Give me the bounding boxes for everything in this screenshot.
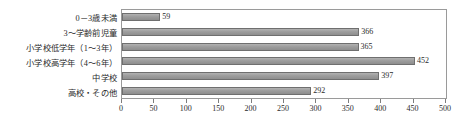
bar-value-label: 366 [361, 28, 373, 36]
x-axis-tick-mark [186, 99, 187, 103]
x-axis-tick-label: 350 [342, 104, 354, 113]
bar-value-label: 365 [361, 43, 373, 51]
bar-row: 365 [122, 39, 446, 54]
bar-row: 397 [122, 69, 446, 84]
category-axis: 0－3歳未満 3～学齢前児童 小学校低学年（1～3年） 小学校高学年（4～6年）… [0, 9, 120, 99]
x-axis: 050100150200250300350400450500 [121, 99, 447, 129]
bar-row: 366 [122, 25, 446, 40]
x-axis-tick-mark [251, 99, 252, 103]
bar [122, 72, 379, 80]
bar-value-label: 452 [417, 57, 429, 65]
bar [122, 13, 160, 21]
x-axis-tick-mark [153, 99, 154, 103]
category-label: 中学校 [0, 69, 120, 84]
bar-row: 452 [122, 54, 446, 69]
bar [122, 28, 359, 36]
horizontal-bar-chart: 0－3歳未満 3～学齢前児童 小学校低学年（1～3年） 小学校高学年（4～6年）… [0, 0, 457, 134]
x-axis-tick-mark [218, 99, 219, 103]
x-axis-tick-label: 0 [119, 104, 123, 113]
bar [122, 57, 415, 65]
plot-area: 59 366 365 452 397 292 [121, 9, 447, 99]
x-axis-tick-label: 300 [309, 104, 321, 113]
x-axis-tick-mark [413, 99, 414, 103]
category-label: 高校・その他 [0, 84, 120, 99]
x-axis-tick-label: 150 [212, 104, 224, 113]
x-axis-tick-label: 500 [439, 104, 451, 113]
x-axis-tick-mark [348, 99, 349, 103]
x-axis-tick-label: 200 [245, 104, 257, 113]
x-axis-tick-label: 450 [407, 104, 419, 113]
x-axis-tick-label: 100 [180, 104, 192, 113]
category-label: 小学校低学年（1～3年） [0, 39, 120, 54]
bars-container: 59 366 365 452 397 292 [122, 10, 446, 98]
x-axis-tick-label: 50 [149, 104, 157, 113]
x-axis-tick-label: 400 [374, 104, 386, 113]
bar-row: 59 [122, 10, 446, 25]
category-label: 0－3歳未満 [0, 9, 120, 24]
x-axis-tick-mark [380, 99, 381, 103]
x-axis-tick-mark [121, 99, 122, 103]
category-label: 3～学齢前児童 [0, 24, 120, 39]
bar-row: 292 [122, 83, 446, 98]
bar-value-label: 397 [381, 72, 393, 80]
x-axis-tick-label: 250 [277, 104, 289, 113]
category-label: 小学校高学年（4～6年） [0, 54, 120, 69]
bar [122, 43, 359, 51]
x-axis-tick-mark [445, 99, 446, 103]
bar-value-label: 292 [313, 87, 325, 95]
bar [122, 87, 311, 95]
bar-value-label: 59 [162, 13, 170, 21]
x-axis-tick-mark [283, 99, 284, 103]
x-axis-tick-mark [315, 99, 316, 103]
